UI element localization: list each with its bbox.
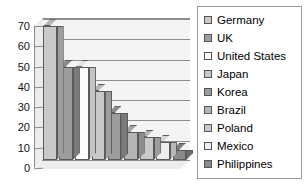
- legend-item[interactable]: United States: [204, 47, 301, 65]
- legend-item-label: Korea: [217, 86, 248, 98]
- legend-item-label: United States: [217, 50, 286, 62]
- bar-series: [34, 18, 190, 169]
- y-axis-tick-mark: [34, 147, 43, 148]
- legend-item-label: Japan: [217, 68, 248, 80]
- bar-chart-figure: 706050403020100 GermanyUKUnited StatesJa…: [0, 0, 306, 185]
- plot-region: 706050403020100: [0, 0, 196, 185]
- legend-item[interactable]: Korea: [204, 83, 301, 101]
- legend-item[interactable]: Philippines: [204, 155, 301, 173]
- y-axis-tick-label: 50: [6, 62, 30, 72]
- legend-swatch-icon: [204, 88, 212, 96]
- chart-legend: GermanyUKUnited StatesJapanKoreaBrazilPo…: [197, 6, 302, 179]
- legend-swatch-icon: [204, 160, 212, 168]
- legend-swatch-icon: [204, 142, 212, 150]
- plot-area: [34, 18, 190, 168]
- legend-item-label: Brazil: [217, 104, 246, 116]
- legend-item[interactable]: Brazil: [204, 101, 301, 119]
- legend-item-label: Germany: [217, 14, 264, 26]
- bar: [43, 26, 57, 160]
- legend-item-label: Poland: [217, 122, 253, 134]
- legend-item-label: Philippines: [217, 158, 273, 170]
- y-axis-tick-label: 0: [6, 163, 30, 173]
- y-axis-tick-mark: [34, 168, 43, 169]
- y-axis-tick-label: 10: [6, 143, 30, 153]
- legend-swatch-icon: [204, 52, 212, 60]
- y-axis-tick-label: 20: [6, 122, 30, 132]
- bar-top-face: [43, 19, 57, 26]
- legend-swatch-icon: [204, 16, 212, 24]
- bar-side-face: [121, 113, 128, 160]
- bar-top-face: [75, 60, 89, 67]
- y-axis-tick-label: 70: [6, 21, 30, 31]
- legend-swatch-icon: [204, 34, 212, 42]
- legend-item-label: Mexico: [217, 140, 253, 152]
- bar-side-face: [105, 91, 112, 160]
- y-axis-tick-mark: [34, 66, 43, 67]
- legend-item[interactable]: Germany: [204, 11, 301, 29]
- bar-side-face: [73, 67, 80, 160]
- legend-item[interactable]: Mexico: [204, 137, 301, 155]
- bar-side-face: [186, 150, 193, 160]
- legend-item[interactable]: Japan: [204, 65, 301, 83]
- legend-item-label: UK: [217, 32, 233, 44]
- legend-item[interactable]: UK: [204, 29, 301, 47]
- y-axis-tick-label: 30: [6, 102, 30, 112]
- legend-item[interactable]: Poland: [204, 119, 301, 137]
- bar-side-face: [57, 26, 64, 160]
- bar-side-face: [89, 67, 96, 160]
- legend-swatch-icon: [204, 124, 212, 132]
- y-axis: 706050403020100: [4, 0, 30, 185]
- bar-front-face: [43, 26, 57, 160]
- legend-swatch-icon: [204, 106, 212, 114]
- y-axis-tick-label: 40: [6, 82, 30, 92]
- legend-swatch-icon: [204, 70, 212, 78]
- y-axis-tick-label: 60: [6, 41, 30, 51]
